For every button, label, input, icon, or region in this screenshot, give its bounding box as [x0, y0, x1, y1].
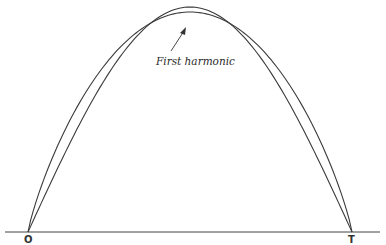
- annotation-arrow-head-icon: [180, 27, 186, 35]
- harmonic-diagram: First harmonic O T: [0, 0, 386, 245]
- origin-label: O: [24, 234, 33, 245]
- annotation-arrow-shaft: [171, 31, 184, 51]
- first-harmonic-curve: [28, 7, 352, 232]
- original-wave-curve: [28, 12, 352, 232]
- end-label: T: [348, 234, 355, 245]
- annotation-label: First harmonic: [155, 55, 235, 67]
